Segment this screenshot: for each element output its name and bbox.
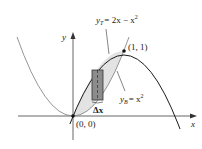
area-between-curves-diagram: y x yT= 2x − x2 yB= x2 (1, 1) (0, 0) Δx — [0, 0, 202, 149]
point-one-one — [122, 49, 126, 53]
leader-top-curve — [106, 29, 109, 54]
bottom-curve-label: yB= x2 — [119, 93, 144, 105]
x-axis-arrow-icon — [190, 114, 197, 119]
leader-bottom-curve — [117, 71, 125, 91]
point-origin — [71, 114, 75, 118]
top-curve-label: yT= 2x − x2 — [95, 14, 138, 26]
y-axis-label: y — [61, 32, 66, 42]
delta-x-label: Δx — [93, 105, 104, 115]
point-one-one-label: (1, 1) — [128, 42, 148, 52]
x-axis-label: x — [190, 119, 195, 129]
y-axis-arrow-icon — [71, 32, 76, 39]
point-origin-label: (0, 0) — [76, 119, 96, 129]
